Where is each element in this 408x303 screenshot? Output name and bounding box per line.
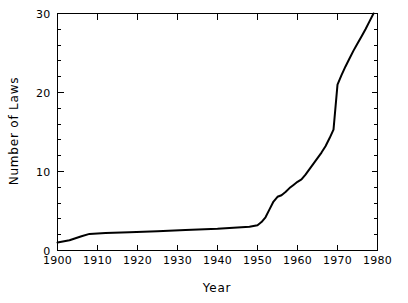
- x-tick-label: 1920: [123, 254, 152, 267]
- y-tick-label: 20: [36, 87, 51, 100]
- line-chart: 190019101920193019401950196019701980 010…: [0, 0, 408, 303]
- x-tick-label: 1940: [203, 254, 232, 267]
- x-tick-label: 1910: [83, 254, 112, 267]
- x-tick-label: 1980: [363, 254, 392, 267]
- x-tick-label: 1930: [163, 254, 192, 267]
- chart-figure: 190019101920193019401950196019701980 010…: [0, 0, 408, 303]
- y-tick-label: 30: [36, 8, 51, 21]
- x-tick-label: 1970: [323, 254, 352, 267]
- y-tick-label: 0: [43, 245, 50, 258]
- x-axis-title: Year: [202, 281, 232, 295]
- y-tick-label: 10: [36, 166, 51, 179]
- x-tick-label: 1960: [283, 254, 312, 267]
- y-axis-title: Number of Laws: [7, 77, 21, 186]
- x-tick-label: 1950: [243, 254, 272, 267]
- x-axis-tick-labels: 190019101920193019401950196019701980: [43, 254, 392, 267]
